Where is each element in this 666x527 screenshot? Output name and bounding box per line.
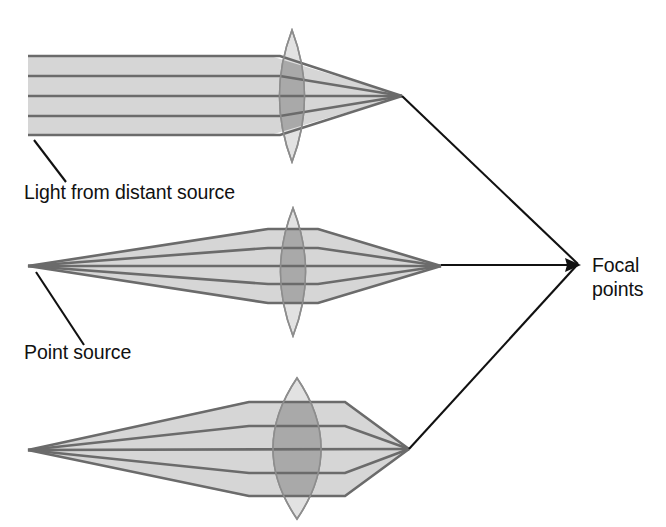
diagram-canvas: Light from distant source Point source [0,0,666,527]
label-light-from-distant-source: Light from distant source [24,181,235,203]
focal-points-callout: Focal points [402,96,644,449]
ray-line [28,449,409,450]
optics-focal-points-diagram: Light from distant source Point source [0,0,666,527]
point-source-thin-lens-panel: Point source [24,208,441,363]
label-focal-points-line2: points [592,278,644,300]
point-source-thick-lens-panel [28,378,409,519]
leader-line-focal-top [402,96,578,264]
leader-line-point-source [36,272,84,345]
parallel-rays-panel: Light from distant source [24,30,402,203]
leader-line-focal-bottom [409,264,578,449]
label-point-source: Point source [24,341,131,363]
label-focal-points-line1: Focal [592,254,639,276]
leader-line-distant-source [34,140,66,182]
